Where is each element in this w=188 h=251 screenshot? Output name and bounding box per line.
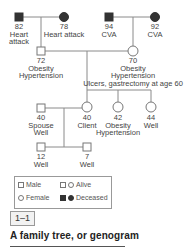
female-circle-icon — [18, 195, 24, 201]
sister-44-symbol — [146, 102, 156, 112]
legend: Male Female Alive Deceased — [14, 176, 112, 209]
son-12-label: 12 Well — [34, 153, 48, 168]
caption-divider — [10, 246, 125, 247]
pat-grandmother-symbol — [60, 13, 69, 22]
sister-42-symbol — [113, 102, 123, 112]
alive-circle-icon — [68, 182, 74, 188]
son-12-symbol — [37, 143, 45, 151]
mother-symbol — [128, 46, 138, 56]
mat-grandfather-symbol — [105, 13, 113, 21]
mat-grandfather-label: 94 CVA — [102, 23, 117, 38]
legend-alive: Alive — [60, 181, 91, 188]
pat-grandmother-label: 78 Heart attack — [44, 23, 84, 38]
son-7-label: 7 Well — [80, 153, 94, 168]
legend-male: Male — [18, 181, 41, 188]
client-symbol — [82, 102, 92, 112]
mat-grandmother-symbol — [151, 13, 160, 22]
figure-number: 1–1 — [10, 211, 35, 226]
spouse-label: 40 Spouse Well — [28, 114, 53, 137]
pat-grandfather-symbol — [15, 13, 23, 21]
legend-deceased: Deceased — [60, 194, 108, 201]
sister-44-label: 44 Well — [144, 114, 158, 129]
figure-caption: A family tree, or genogram — [10, 230, 139, 241]
spouse-symbol — [37, 104, 45, 112]
deceased-circle-icon — [68, 195, 74, 201]
client-label: 40 Client — [77, 114, 96, 129]
legend-female: Female — [18, 194, 49, 201]
deceased-square-icon — [60, 195, 66, 201]
mat-grandmother-label: 92 CVA — [148, 23, 163, 38]
father-label: 72 Obesity Hypertension — [19, 57, 63, 80]
father-symbol — [37, 47, 45, 55]
male-square-icon — [18, 182, 24, 188]
son-7-symbol — [83, 143, 91, 151]
pat-grandfather-label: 82 Heart attack — [9, 23, 29, 46]
alive-square-icon — [60, 182, 66, 188]
sister-42-label: 42 Obesity Hypertension — [96, 114, 140, 137]
mother-label: 70 Obesity Hypertension Ulcers, gastrect… — [83, 57, 183, 87]
